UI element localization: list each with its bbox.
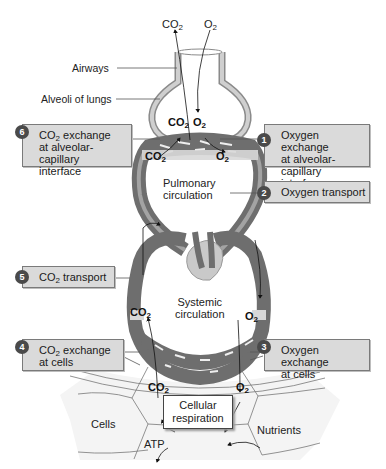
step-1-badge: 1 xyxy=(257,133,271,147)
pulmonary-o2-label: O2 xyxy=(216,150,229,162)
systemic-circulation-label: Systemiccirculation xyxy=(175,296,225,320)
step-4-badge: 4 xyxy=(15,340,29,354)
systemic-co2-label: CO2 xyxy=(130,306,151,318)
atp-label: ATP xyxy=(144,438,165,450)
step-5-badge: 5 xyxy=(15,270,29,284)
pulmonary-circulation-label: Pulmonarycirculation xyxy=(163,177,216,201)
step-6-box: CO2 exchangeat alveolar-capillaryinterfa… xyxy=(22,124,132,167)
systemic-o2-label: O2 xyxy=(245,310,258,322)
step-2-badge: 2 xyxy=(257,186,271,200)
nutrients-label: Nutrients xyxy=(257,424,301,436)
top-o2-label: O2 xyxy=(204,18,217,30)
pulmonary-co2-label: CO2 xyxy=(145,150,166,162)
step-6-badge: 6 xyxy=(15,125,29,139)
step-5-box: CO2 transport xyxy=(22,266,115,288)
cells-label: Cells xyxy=(91,418,115,430)
step-4-box: CO2 exchangeat cells xyxy=(22,339,124,371)
step-3-badge: 3 xyxy=(257,340,271,354)
alveoli-label: Alveoli of lungs xyxy=(41,93,112,105)
step-1-box: Oxygen exchange at alveolar-capillary in… xyxy=(264,124,370,167)
cells-o2-label: O2 xyxy=(236,381,249,393)
airways-label: Airways xyxy=(72,62,109,74)
step-2-box: Oxygen transport xyxy=(264,181,370,203)
step-3-box: Oxygen exchange at cells xyxy=(264,339,370,371)
top-co2-label: CO2 xyxy=(162,18,183,30)
cells-co2-label: CO2 xyxy=(148,381,169,393)
alveolus-co2-label: CO2 xyxy=(168,116,189,128)
alveolus-o2-label: O2 xyxy=(193,116,206,128)
cellular-respiration-box: Cellularrespiration xyxy=(163,395,233,429)
alveolus xyxy=(152,49,248,145)
